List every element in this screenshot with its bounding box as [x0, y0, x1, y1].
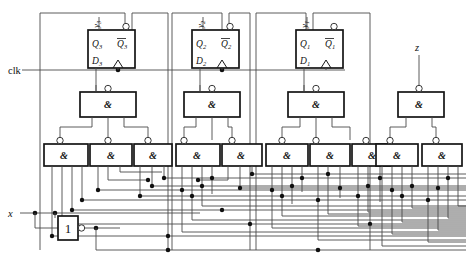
x-input-wire	[20, 211, 200, 228]
nand-upper-1[interactable]	[60, 85, 148, 140]
svg-text:y2: y2	[195, 20, 206, 29]
nand-lower-5-symbol: &	[237, 150, 245, 161]
logic-schematic: clk z Q3 Q3 D3 y3	[0, 0, 466, 253]
nand-lower-1-symbol: &	[60, 150, 68, 161]
schematic-canvas: clk z Q3 Q3 D3 y3	[0, 0, 466, 253]
nand-lower-5-bubble	[229, 137, 235, 143]
routing-bus	[52, 174, 466, 236]
nand-lower-10-symbol: &	[438, 150, 446, 161]
nand-lower-3-bubble	[145, 137, 151, 143]
svg-text:y3: y3	[91, 20, 102, 29]
nand-upper-2-symbol: &	[208, 99, 216, 110]
nand-upper-3-bubble	[313, 85, 319, 91]
nand-lower-7-symbol: &	[326, 150, 334, 161]
nand-lower-2-symbol: &	[107, 150, 115, 161]
nand-lower-3-symbol: &	[149, 150, 157, 161]
nand-upper-1-symbol: &	[104, 99, 112, 110]
nand-lower-2-bubble	[105, 137, 111, 143]
nand-lower-4-symbol: &	[193, 150, 201, 161]
nand-lower-10-bubble	[433, 137, 439, 143]
nand-upper-4-symbol: &	[415, 99, 423, 110]
nand-lower-9-symbol: &	[393, 150, 401, 161]
nand-upper-2-bubble	[209, 85, 215, 91]
svg-text:y1: y1	[299, 21, 310, 29]
qbar-bubble-1	[331, 23, 337, 29]
nand-lower-6-bubble	[279, 137, 285, 143]
clk-label: clk	[8, 65, 22, 76]
nand-upper-2[interactable]	[184, 85, 240, 140]
ff1-state-label: y1	[299, 21, 310, 29]
nand-upper-1-bubble	[105, 85, 111, 91]
nand-lower-7-bubble	[313, 137, 319, 143]
nand-lower-8-symbol: &	[368, 150, 376, 161]
z-label: z	[414, 42, 419, 53]
nand-lower-1-bubble	[57, 137, 63, 143]
nand-lower-9-bubble	[387, 137, 393, 143]
qbar-bubble-2	[227, 23, 233, 29]
nand-upper-3-symbol: &	[312, 99, 320, 110]
ff3-state-label: y3	[91, 20, 102, 29]
nand-upper-4-bubble	[416, 85, 422, 91]
x-label: x	[7, 208, 13, 219]
nand-upper-4[interactable]	[390, 85, 444, 140]
ff2-state-label: y2	[195, 20, 206, 29]
nand-lower-8-bubble	[363, 137, 369, 143]
nand-lower-4-bubble	[181, 137, 187, 143]
nand-lower-6-symbol: &	[283, 150, 291, 161]
inverter-symbol: 1	[65, 221, 72, 236]
qbar-bubble-3	[123, 23, 129, 29]
nand-upper-3[interactable]	[282, 85, 350, 140]
inverter-bubble	[78, 225, 84, 231]
